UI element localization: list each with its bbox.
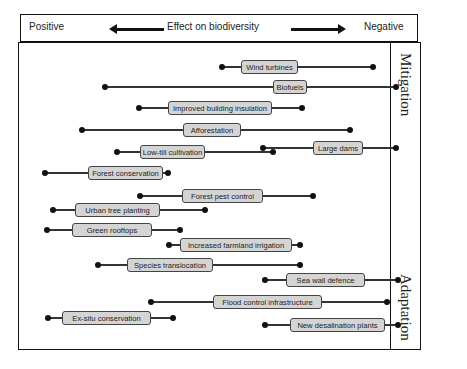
range-end-dot bbox=[299, 105, 305, 111]
range-end-dot bbox=[393, 84, 399, 90]
range-label: Sea wall defence bbox=[286, 273, 365, 287]
range-start-dot bbox=[262, 322, 268, 328]
positive-label: Positive bbox=[29, 21, 64, 32]
range-start-dot bbox=[262, 277, 268, 283]
range-start-dot bbox=[42, 170, 48, 176]
range-label: Forest conservation bbox=[88, 166, 163, 180]
mitigation-label: Mitigation bbox=[397, 53, 414, 116]
range-label: Urban tree planting bbox=[75, 203, 160, 217]
range-start-dot bbox=[148, 299, 154, 305]
range-label: Low-till cultivation bbox=[140, 145, 205, 159]
header-bar: Positive Effect on biodiversity Negative bbox=[20, 14, 418, 42]
range-end-dot bbox=[270, 149, 276, 155]
range-end-dot bbox=[202, 207, 208, 213]
range-start-dot bbox=[137, 193, 143, 199]
effect-on-biodiversity-label: Effect on biodiversity bbox=[167, 21, 259, 32]
range-label: Flood control infrastructure bbox=[213, 295, 322, 309]
range-end-dot bbox=[165, 170, 171, 176]
range-start-dot bbox=[44, 227, 50, 233]
range-start-dot bbox=[102, 84, 108, 90]
arrow-left-icon bbox=[116, 28, 164, 31]
range-label: New desalination plants bbox=[290, 318, 385, 332]
range-end-dot bbox=[297, 262, 303, 268]
arrow-right-icon bbox=[291, 28, 339, 31]
range-label: Large dams bbox=[313, 141, 363, 155]
range-end-dot bbox=[310, 193, 316, 199]
range-label: Increased farmland irrigation bbox=[180, 238, 292, 252]
range-end-dot bbox=[393, 145, 399, 151]
range-end-dot bbox=[347, 127, 353, 133]
range-start-dot bbox=[79, 127, 85, 133]
range-start-dot bbox=[166, 242, 172, 248]
range-start-dot bbox=[95, 262, 101, 268]
range-label: Forest pest control bbox=[182, 189, 263, 203]
range-label: Wind turbines bbox=[241, 60, 298, 74]
range-start-dot bbox=[136, 105, 142, 111]
negative-label: Negative bbox=[364, 21, 403, 32]
range-label: Green rooftops bbox=[72, 223, 152, 237]
range-end-dot bbox=[297, 242, 303, 248]
range-end-dot bbox=[177, 227, 183, 233]
range-label: Improved building insulation bbox=[168, 101, 272, 115]
range-end-dot bbox=[395, 277, 401, 283]
range-start-dot bbox=[260, 145, 266, 151]
range-label: Biofuels bbox=[273, 80, 307, 94]
adaptation-label: Adaptation bbox=[397, 274, 414, 341]
range-label: Afforestation bbox=[183, 123, 241, 137]
range-end-dot bbox=[170, 315, 176, 321]
range-label: Species translocation bbox=[127, 258, 213, 272]
range-start-dot bbox=[114, 149, 120, 155]
range-start-dot bbox=[219, 64, 225, 70]
range-start-dot bbox=[45, 315, 51, 321]
range-end-dot bbox=[370, 64, 376, 70]
range-start-dot bbox=[50, 207, 56, 213]
range-line bbox=[105, 86, 396, 87]
range-label: Ex-situ conservation bbox=[62, 311, 151, 325]
range-end-dot bbox=[384, 299, 390, 305]
range-end-dot bbox=[395, 322, 401, 328]
